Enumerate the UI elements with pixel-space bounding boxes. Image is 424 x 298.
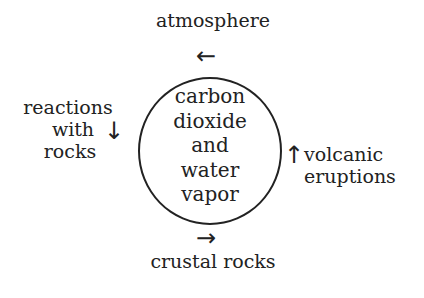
volcanic-eruptions-label: volcanic eruptions [304,143,396,187]
left-line-1: reactions [18,96,118,118]
center-line-5: vapor [138,182,282,207]
right-line-2: eruptions [304,165,396,187]
arrow-left-icon: ← [196,44,216,68]
atmosphere-label: atmosphere [138,9,288,31]
crustal-rocks-label: crustal rocks [128,250,298,272]
arrow-right-icon: → [196,226,216,250]
left-line-3: rocks [18,140,118,162]
center-line-2: dioxide [138,109,282,134]
left-line-2: with [18,118,118,140]
reactions-with-rocks-label: reactions with rocks [18,96,118,162]
center-line-3: and [138,133,282,158]
center-label: carbon dioxide and water vapor [138,84,282,207]
arrow-up-icon: ↑ [284,143,304,167]
center-line-1: carbon [138,84,282,109]
center-line-4: water [138,158,282,183]
right-line-1: volcanic [304,143,396,165]
arrow-down-icon: ↓ [104,119,124,143]
